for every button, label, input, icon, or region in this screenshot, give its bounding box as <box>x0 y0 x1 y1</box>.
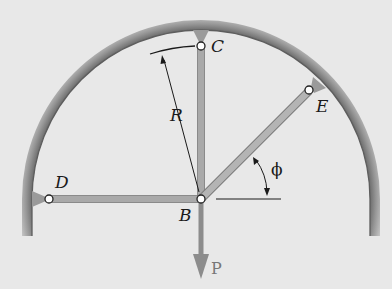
label-phi: ϕ <box>271 159 283 179</box>
label-c: C <box>211 36 224 56</box>
label-r: R <box>169 105 183 125</box>
member-bd <box>49 196 201 203</box>
label-e: E <box>315 96 329 116</box>
structure-diagram: C D E B R ϕ P <box>0 0 392 289</box>
pin-b <box>197 195 205 203</box>
arrowhead-icon <box>161 55 167 64</box>
label-b: B <box>178 205 192 225</box>
arrowhead-icon <box>264 188 270 196</box>
diagram-canvas: C D E B R ϕ P <box>0 0 392 289</box>
load-arrow-p <box>193 200 209 279</box>
label-p: P <box>211 259 222 278</box>
member-be <box>201 91 309 199</box>
pin-d <box>45 195 53 203</box>
pin-e <box>305 86 313 94</box>
label-d: D <box>54 172 69 192</box>
support-d <box>32 191 46 207</box>
member-bc <box>198 45 205 199</box>
pin-c <box>197 42 205 50</box>
support-c <box>193 30 209 42</box>
